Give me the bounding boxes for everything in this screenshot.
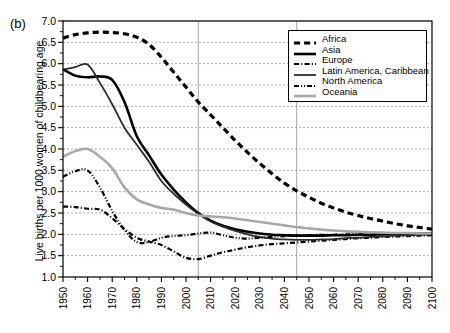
svg-text:3.5: 3.5: [41, 164, 56, 176]
svg-text:6.5: 6.5: [41, 36, 56, 48]
y-axis-ticks: 1.01.52.02.53.03.54.04.55.05.56.06.57.0: [41, 15, 63, 283]
svg-text:2080: 2080: [377, 287, 388, 310]
legend-label: Africa: [322, 34, 346, 45]
legend-item-africa[interactable]: Africa: [293, 34, 422, 45]
svg-text:6.0: 6.0: [41, 57, 56, 69]
chart-legend: AfricaAsiaEuropeLatin America, Caribbean…: [288, 30, 427, 102]
legend-item-north-america[interactable]: North America: [293, 76, 422, 87]
svg-text:2030: 2030: [254, 287, 265, 310]
svg-text:2.5: 2.5: [41, 207, 56, 219]
legend-label: Oceania: [322, 87, 357, 98]
legend-key-icon: [293, 45, 317, 55]
legend-key-icon: [293, 66, 317, 76]
legend-item-asia[interactable]: Asia: [293, 45, 422, 56]
svg-text:2000: 2000: [181, 287, 192, 310]
svg-text:2050: 2050: [304, 287, 315, 310]
svg-text:2020: 2020: [230, 287, 241, 310]
svg-text:4.0: 4.0: [41, 143, 56, 155]
svg-text:1950: 1950: [58, 287, 69, 310]
legend-key-icon: [293, 34, 317, 44]
svg-text:2060: 2060: [328, 287, 339, 310]
svg-text:2100: 2100: [427, 287, 438, 310]
svg-text:1960: 1960: [82, 287, 93, 310]
svg-text:2.0: 2.0: [41, 228, 56, 240]
legend-item-oceania[interactable]: Oceania: [293, 87, 422, 98]
svg-text:2010: 2010: [205, 287, 216, 310]
svg-text:5.0: 5.0: [41, 100, 56, 112]
legend-key-icon: [293, 87, 317, 97]
svg-text:7.0: 7.0: [41, 15, 56, 27]
svg-text:2070: 2070: [353, 287, 364, 310]
legend-key-icon: [293, 77, 317, 87]
svg-text:1.0: 1.0: [41, 271, 56, 283]
svg-text:3.0: 3.0: [41, 185, 56, 197]
svg-text:5.5: 5.5: [41, 79, 56, 91]
svg-text:2090: 2090: [402, 287, 413, 310]
legend-key-icon: [293, 55, 317, 65]
fertility-projection-figure: (b) Live births per 1000 women of childb…: [0, 0, 450, 333]
svg-text:1.5: 1.5: [41, 249, 56, 261]
svg-text:1990: 1990: [156, 287, 167, 310]
svg-text:1980: 1980: [131, 287, 142, 310]
x-axis-ticks: 1950196019701980199020002010202020302040…: [58, 277, 438, 309]
svg-text:2040: 2040: [279, 287, 290, 310]
svg-text:1970: 1970: [107, 287, 118, 310]
svg-text:4.5: 4.5: [41, 121, 56, 133]
